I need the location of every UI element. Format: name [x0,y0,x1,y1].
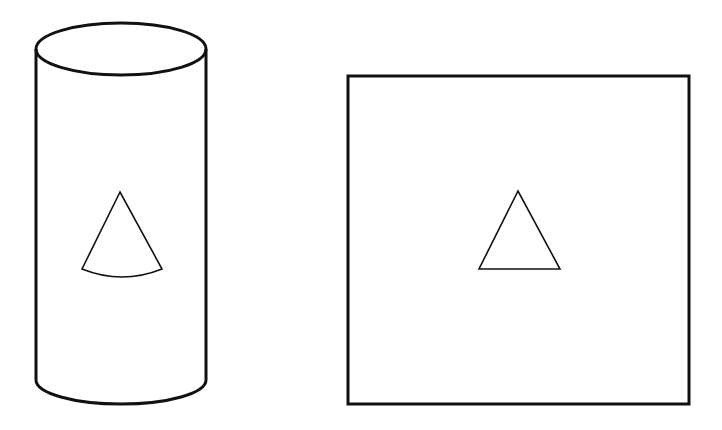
cylinder [36,23,206,404]
diagram-svg [0,0,722,430]
cylinder-bottom-arc [36,380,206,404]
curved-triangle-on-cylinder [82,192,162,277]
triangle-on-square [479,191,560,269]
square [348,76,689,404]
cylinder-top-ellipse [36,23,206,75]
diagram-canvas [0,0,722,430]
